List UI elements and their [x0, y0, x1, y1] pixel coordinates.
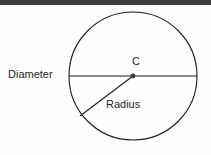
radius-label: Radius [106, 99, 140, 110]
center-point-dot [131, 74, 136, 79]
circle-diagram-canvas: Diameter Radius C [0, 0, 211, 155]
center-label: C [132, 56, 140, 67]
diameter-label: Diameter [8, 69, 53, 80]
radius-line [80, 76, 133, 116]
